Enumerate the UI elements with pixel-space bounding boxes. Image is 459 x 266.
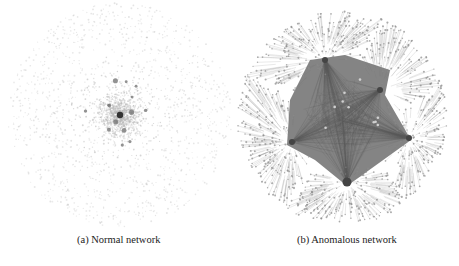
anomalous-network-graph bbox=[235, 0, 459, 230]
panel-anomalous-network bbox=[235, 0, 459, 230]
panel-normal-network bbox=[0, 0, 240, 230]
caption-anomalous-network: (b) Anomalous network bbox=[297, 234, 397, 245]
normal-network-graph bbox=[0, 0, 240, 230]
caption-normal-network: (a) Normal network bbox=[77, 234, 160, 245]
